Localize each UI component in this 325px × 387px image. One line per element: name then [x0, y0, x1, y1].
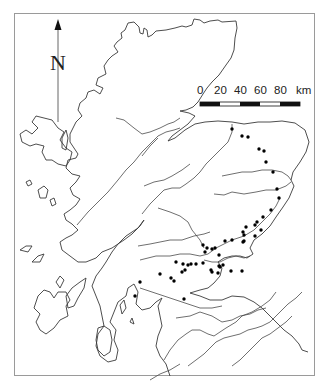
distribution-dot: [172, 279, 175, 282]
island-rum: [38, 186, 48, 198]
distribution-dot: [230, 127, 233, 130]
distribution-dot: [240, 134, 243, 137]
scale-tick-40: 40: [234, 84, 247, 96]
scale-unit: km: [296, 84, 311, 96]
distribution-dot: [275, 187, 278, 190]
river-forth: [140, 288, 222, 308]
island-islay-small: [56, 276, 64, 288]
distribution-dot: [223, 239, 226, 242]
river-beauly: [144, 164, 190, 186]
distribution-dot: [240, 269, 243, 272]
distribution-dot: [229, 269, 232, 272]
coastline-southwest: [92, 220, 170, 376]
distribution-dot: [138, 280, 141, 283]
distribution-dot: [269, 208, 272, 211]
distribution-dot: [182, 297, 185, 300]
distribution-dot: [201, 261, 204, 264]
distribution-dot: [186, 263, 189, 266]
distribution-dot: [183, 268, 186, 271]
river-tay-upper: [158, 208, 204, 248]
island-eigg: [50, 198, 56, 206]
distribution-dot: [174, 260, 177, 263]
distribution-dot: [210, 270, 213, 273]
river-south-2: [232, 316, 292, 366]
distribution-dot: [203, 250, 206, 253]
distribution-dot: [213, 246, 216, 249]
distribution-dot: [242, 233, 245, 236]
distribution-dot: [218, 265, 221, 268]
distribution-dot: [264, 160, 267, 163]
distribution-dot: [201, 243, 204, 246]
scale-tick-60: 60: [254, 84, 267, 96]
map-canvas: [0, 0, 325, 387]
distribution-dot: [181, 262, 184, 265]
river-oykel: [116, 118, 180, 134]
river-spey-upper: [142, 124, 232, 214]
distribution-dot: [271, 170, 274, 173]
distribution-dot: [189, 262, 192, 265]
distribution-dot: [216, 271, 219, 274]
island-cumbrae: [130, 318, 134, 324]
river-don: [214, 182, 291, 195]
distribution-dot: [262, 149, 265, 152]
distribution-dot: [244, 225, 247, 228]
distribution-dot: [246, 135, 249, 138]
river-deveron: [222, 170, 291, 180]
north-label: N: [50, 52, 66, 74]
distribution-dot: [253, 223, 256, 226]
great-glen-inner: [142, 138, 158, 156]
river-tay: [140, 198, 280, 260]
distribution-dot: [255, 220, 258, 223]
distribution-dot: [253, 234, 256, 237]
island-small-1: [20, 246, 32, 252]
distribution-dot: [194, 262, 197, 265]
island-jura: [66, 278, 86, 308]
river-clyde: [164, 292, 276, 360]
distribution-dot: [205, 246, 208, 249]
distribution-dot: [259, 228, 262, 231]
distribution-dot: [221, 263, 224, 266]
scale-tick-0: 0: [197, 84, 203, 96]
island-bute: [120, 300, 126, 314]
distribution-dot: [210, 247, 213, 250]
scale-bar-labels: 0 20 40 60 80 km: [196, 84, 316, 98]
distribution-dot: [241, 230, 244, 233]
distribution-dot: [217, 253, 220, 256]
distribution-dot: [230, 238, 233, 241]
island-coll: [32, 254, 44, 262]
distribution-dot: [169, 276, 172, 279]
distribution-dot: [180, 270, 183, 273]
distribution-dot: [241, 240, 244, 243]
river-tweed: [176, 308, 266, 322]
distribution-dot: [133, 294, 136, 297]
distribution-dot: [261, 215, 264, 218]
distribution-dots: [133, 127, 280, 300]
coastline-mainland: [128, 19, 309, 352]
distribution-dot: [158, 272, 161, 275]
island-mull: [34, 290, 70, 334]
island-canna: [26, 180, 32, 186]
river-nith: [150, 364, 180, 380]
coastline-west: [60, 23, 144, 262]
distribution-dot: [257, 147, 260, 150]
distribution-dot: [277, 196, 280, 199]
scale-bar: [200, 102, 300, 106]
island-skye: [20, 116, 72, 166]
scale-tick-20: 20: [214, 84, 227, 96]
scale-tick-80: 80: [274, 84, 287, 96]
